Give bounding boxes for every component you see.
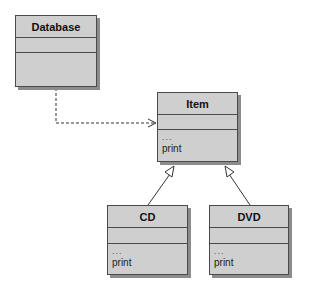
operation-ellipsis: ... — [112, 246, 187, 257]
operation-print: print — [162, 143, 237, 154]
operations-compartment — [16, 53, 96, 55]
class-cd[interactable]: CD ... print — [107, 205, 188, 275]
operation-print: print — [112, 257, 187, 268]
operation-print: print — [214, 257, 288, 268]
class-name-label: Item — [186, 98, 209, 110]
attributes-compartment — [16, 38, 96, 53]
operations-compartment: ... print — [158, 130, 237, 154]
class-dvd[interactable]: DVD ... print — [209, 205, 289, 275]
attributes-compartment — [158, 115, 237, 130]
operations-compartment: ... print — [108, 244, 187, 268]
class-name-label: DVD — [237, 211, 260, 223]
class-name-label: Database — [32, 21, 81, 33]
attributes-compartment — [210, 228, 288, 244]
inheritance-arrow-dvd — [225, 166, 250, 205]
class-item[interactable]: Item ... print — [157, 92, 238, 162]
class-name-label: CD — [140, 211, 156, 223]
class-name: Item — [158, 93, 237, 115]
operation-ellipsis: ... — [162, 132, 237, 143]
class-name: DVD — [210, 206, 288, 228]
operation-ellipsis: ... — [214, 246, 288, 257]
class-name: CD — [108, 206, 187, 228]
class-database[interactable]: Database — [15, 15, 97, 87]
dependency-arrow — [56, 88, 156, 127]
operations-compartment: ... print — [210, 244, 288, 268]
class-name: Database — [16, 16, 96, 38]
inheritance-arrow-cd — [148, 166, 174, 205]
attributes-compartment — [108, 228, 187, 244]
